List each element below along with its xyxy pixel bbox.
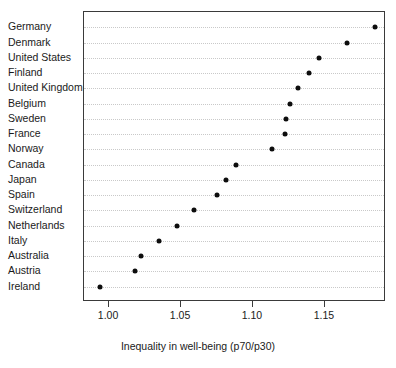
category-label: Belgium <box>8 97 46 109</box>
gridline <box>84 149 384 150</box>
gridline <box>84 88 384 89</box>
data-point <box>344 40 349 45</box>
gridline <box>84 104 384 105</box>
category-label: Austria <box>8 264 41 276</box>
data-point <box>307 71 312 76</box>
category-label: Australia <box>8 249 49 261</box>
x-axis-tick-label: 1.05 <box>170 309 190 321</box>
gridline <box>84 226 384 227</box>
category-label: Ireland <box>8 280 40 292</box>
data-point <box>132 269 137 274</box>
data-point <box>138 254 143 259</box>
data-point <box>288 101 293 106</box>
category-axis-labels: GermanyDenmarkUnited StatesFinlandUnited… <box>8 11 78 301</box>
category-label: Japan <box>8 173 37 185</box>
data-point <box>317 55 322 60</box>
category-label: Spain <box>8 188 35 200</box>
gridline <box>84 43 384 44</box>
chart-page: GermanyDenmarkUnited StatesFinlandUnited… <box>0 0 396 368</box>
plot-area <box>83 11 385 301</box>
data-point <box>223 177 228 182</box>
gridline <box>84 241 384 242</box>
data-point <box>373 25 378 30</box>
x-axis-tick <box>324 301 325 307</box>
category-label: Canada <box>8 158 45 170</box>
data-point <box>174 223 179 228</box>
x-axis-tick-label: 1.10 <box>242 309 262 321</box>
data-point <box>191 208 196 213</box>
x-axis-tick-label: 1.00 <box>98 309 118 321</box>
gridline <box>84 73 384 74</box>
category-label: United States <box>8 51 71 63</box>
x-axis-tick <box>180 301 181 307</box>
x-axis-tick <box>252 301 253 307</box>
x-axis: 1.001.051.101.15 <box>83 301 385 331</box>
data-point <box>157 238 162 243</box>
category-label: Germany <box>8 20 51 32</box>
data-point <box>215 193 220 198</box>
category-label: United Kingdom <box>8 81 83 93</box>
gridline <box>84 256 384 257</box>
category-label: France <box>8 127 41 139</box>
data-point <box>295 86 300 91</box>
category-label: Italy <box>8 234 27 246</box>
gridline <box>84 119 384 120</box>
x-axis-tick-label: 1.15 <box>314 309 334 321</box>
category-label: Netherlands <box>8 219 65 231</box>
gridline <box>84 180 384 181</box>
gridline <box>84 134 384 135</box>
data-point <box>233 162 238 167</box>
x-axis-tick <box>108 301 109 307</box>
gridline <box>84 271 384 272</box>
data-point <box>269 147 274 152</box>
category-label: Finland <box>8 66 42 78</box>
category-label: Denmark <box>8 36 51 48</box>
category-label: Switzerland <box>8 203 62 215</box>
data-point <box>98 284 103 289</box>
x-axis-title: Inequality in well-being (p70/p30) <box>0 340 396 352</box>
category-label: Norway <box>8 142 44 154</box>
gridline <box>84 287 384 288</box>
gridline <box>84 210 384 211</box>
gridline <box>84 58 384 59</box>
category-label: Sweden <box>8 112 46 124</box>
data-point <box>282 132 287 137</box>
data-point <box>284 116 289 121</box>
gridline <box>84 27 384 28</box>
gridline <box>84 195 384 196</box>
